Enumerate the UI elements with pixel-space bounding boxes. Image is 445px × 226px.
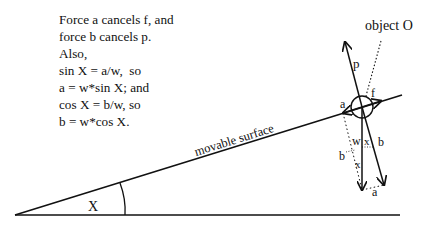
angle-x-upper-label: x xyxy=(364,135,370,147)
force-a-label: a xyxy=(340,97,346,111)
angle-label: X xyxy=(88,199,98,214)
component-a-label: a xyxy=(372,185,378,199)
component-dotted-b-tick xyxy=(346,150,355,152)
force-f-label: f xyxy=(371,86,375,100)
force-w-label: w xyxy=(352,134,361,148)
inclined-plane-diagram: X movable surface object O p f a w b x b… xyxy=(0,0,445,226)
angle-x-lower-label: x xyxy=(355,158,361,170)
angle-arc xyxy=(120,183,125,215)
force-p-label: p xyxy=(353,56,360,71)
force-b-label: b xyxy=(378,135,384,149)
object-label: object O xyxy=(365,18,413,33)
force-p-arrow xyxy=(345,42,362,107)
surface-label: movable surface xyxy=(193,121,276,159)
component-b-label: b xyxy=(339,149,345,163)
component-dotted-a xyxy=(343,113,362,190)
